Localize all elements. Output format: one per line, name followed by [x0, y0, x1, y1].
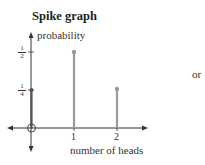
x-axis-right-arrow-icon: [142, 126, 148, 131]
spike-1-dot: [72, 50, 76, 54]
y-axis-up-arrow-icon: [29, 32, 34, 38]
spike-graph-plot: [0, 0, 205, 165]
x-axis-left-arrow-icon: [7, 126, 13, 131]
spike-2-dot: [115, 87, 119, 91]
y-axis-down-arrow-icon: [29, 146, 34, 152]
spikes: [30, 50, 120, 128]
spike-0-dot: [30, 88, 34, 92]
